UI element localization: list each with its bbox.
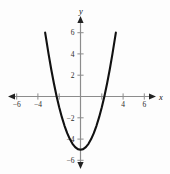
x-axis-label: x	[158, 92, 163, 102]
y-axis-label: y	[78, 6, 83, 16]
y-tick-label-2: 2	[71, 71, 75, 80]
x-axis-left-arrow	[8, 93, 15, 99]
x-axis-right-arrow	[149, 93, 156, 99]
y-axis-top-arrow	[77, 16, 83, 23]
y-tick-label-6: 6	[71, 28, 75, 37]
x-tick-label-minus4: −4	[34, 100, 42, 109]
x-tick-label-minus6: −6	[13, 100, 21, 109]
x-tick-label-6: 6	[142, 100, 146, 109]
x-tick-label-4: 4	[121, 100, 125, 109]
y-tick-label-minus6: −6	[67, 156, 75, 165]
graph-figure: −6 −4 4 6 6 4 2 −2 −4 −6 x y	[0, 0, 170, 174]
coordinate-plane: −6 −4 4 6 6 4 2 −2 −4 −6 x y	[0, 0, 170, 174]
y-tick-label-4: 4	[71, 50, 75, 59]
y-axis-bottom-arrow	[77, 162, 83, 169]
y-tick-label-minus2: −2	[67, 114, 75, 123]
